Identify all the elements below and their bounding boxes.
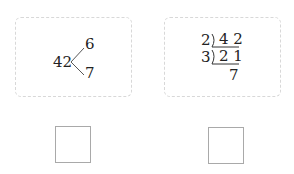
dividend-2: 2 1 bbox=[219, 49, 243, 64]
answer-box-left[interactable] bbox=[55, 126, 91, 163]
factor-tree-branch-top: 6 bbox=[85, 37, 95, 52]
answer-box-right[interactable] bbox=[208, 127, 244, 164]
factor-tree-branches-icon bbox=[0, 0, 294, 174]
quotient: 7 bbox=[229, 68, 239, 83]
divisor-2: 3 bbox=[201, 50, 211, 65]
dividend-1: 4 2 bbox=[219, 32, 243, 47]
factor-tree-branch-bottom: 7 bbox=[85, 66, 95, 81]
divisor-1: 2 bbox=[201, 33, 211, 48]
